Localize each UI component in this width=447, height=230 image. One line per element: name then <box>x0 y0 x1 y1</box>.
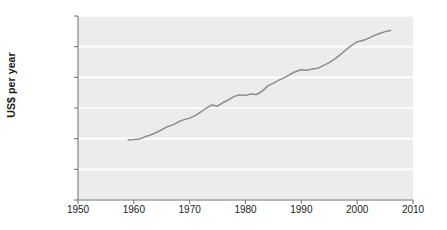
gridlines <box>78 16 413 200</box>
line-chart: US$ per year 05 00010 00015 00020 00025 … <box>0 0 447 230</box>
chart-overlay <box>0 0 447 230</box>
axis-tick-marks <box>74 16 413 204</box>
